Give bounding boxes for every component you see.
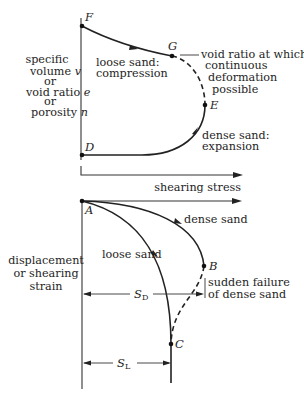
dimension-SL: SL: [83, 356, 171, 371]
svg-text:SL: SL: [117, 356, 131, 371]
point-C: [169, 342, 174, 347]
label-F: F: [84, 10, 94, 24]
upper-chart: shearing stress specific volume v or voi…: [25, 10, 304, 194]
svg-text:displacement: displacement: [8, 254, 84, 267]
label-A: A: [84, 203, 93, 217]
point-E: [203, 103, 208, 108]
svg-text:strain: strain: [29, 280, 62, 293]
sudden-failure-dashed-curve: [171, 266, 204, 344]
label-E: E: [209, 98, 219, 112]
point-B: [202, 264, 207, 269]
dense-sand-label: dense sand: [184, 213, 248, 226]
svg-text:possible: possible: [212, 83, 259, 96]
svg-text:SD: SD: [134, 287, 148, 302]
dimension-SD: SD: [83, 287, 204, 302]
label-C: C: [175, 337, 184, 351]
label-D: D: [84, 140, 94, 154]
loose-sand-curve: [82, 201, 171, 383]
point-F: [80, 24, 85, 29]
x-axis-arrow-icon: [232, 198, 242, 204]
loose-compression-curve: [82, 26, 172, 56]
point-G: [170, 54, 175, 59]
curve-arrow-icon: [174, 218, 182, 224]
x-axis-label: shearing stress: [154, 181, 241, 194]
svg-text:or shearing: or shearing: [13, 267, 78, 280]
label-B: B: [208, 259, 217, 273]
svg-text:porosity n: porosity n: [31, 106, 88, 119]
x-axis-arrow-icon: [233, 172, 243, 178]
svg-text:void ratio e: void ratio e: [25, 86, 91, 99]
point-A: [80, 199, 85, 204]
svg-text:of dense sand: of dense sand: [208, 288, 286, 301]
critical-void-dashed-curve: [172, 56, 205, 105]
expansion-label: expansion: [202, 140, 259, 153]
point-D: [80, 153, 85, 158]
dense-expansion-curve: [82, 105, 205, 155]
label-G: G: [168, 39, 177, 53]
lower-chart: displacement or shearing strain A B C de…: [8, 198, 290, 389]
soil-shear-behavior-diagram: shearing stress specific volume v or voi…: [0, 0, 304, 404]
loose-sand-label: loose sand: [102, 248, 162, 261]
upper-x-axis: [81, 166, 236, 175]
compression-label: compression: [96, 67, 168, 80]
